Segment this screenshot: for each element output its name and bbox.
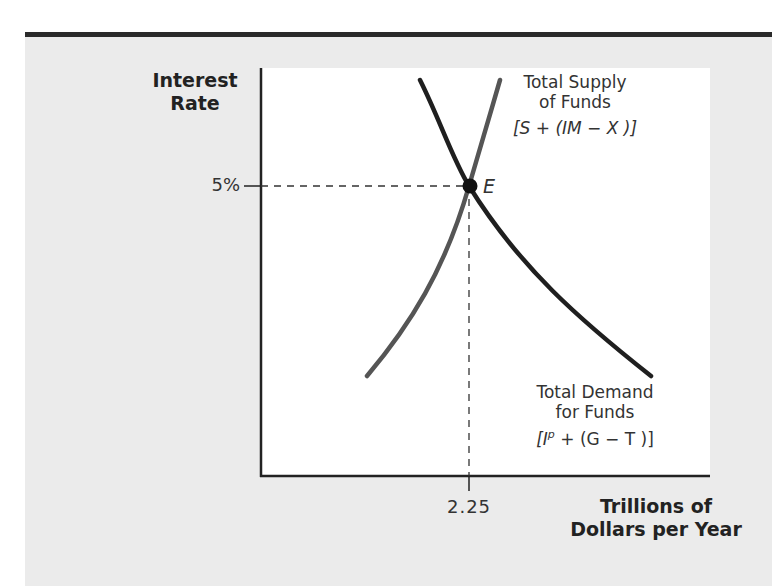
- equilibrium-label: E: [483, 175, 503, 198]
- demand-label-line1: Total Demand: [515, 382, 675, 402]
- supply-label-line1: Total Supply: [500, 72, 650, 92]
- supply-curve: [367, 80, 500, 376]
- demand-formula: [Ip + (G − T )]: [515, 428, 675, 449]
- x-axis-title-line2: Dollars per Year: [556, 518, 756, 541]
- y-axis-title: Interest Rate: [140, 69, 250, 115]
- x-tick-label: 2.25: [434, 496, 504, 518]
- y-axis-title-line2: Rate: [140, 92, 250, 115]
- demand-label-line2: for Funds: [515, 402, 675, 422]
- supply-label: Total Supply of Funds [S + (IM − X )]: [500, 72, 650, 138]
- equilibrium-point: [463, 179, 478, 194]
- demand-formula-sup: p: [548, 428, 555, 441]
- supply-label-line2: of Funds: [500, 92, 650, 112]
- y-axis-title-line1: Interest: [140, 69, 250, 92]
- demand-formula-open: [I: [536, 428, 548, 448]
- demand-label: Total Demand for Funds [Ip + (G − T )]: [515, 382, 675, 449]
- supply-formula: [S + (IM − X )]: [500, 118, 650, 138]
- y-tick-label: 5%: [196, 174, 240, 196]
- demand-formula-rest: + (G − T )]: [555, 428, 654, 448]
- x-axis-title-line1: Trillions of: [556, 495, 756, 518]
- x-axis-title: Trillions of Dollars per Year: [556, 495, 756, 541]
